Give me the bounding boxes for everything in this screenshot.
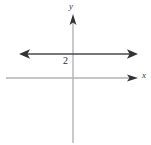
graph-figure: y x 2 [0, 0, 151, 145]
x-axis-label: x [142, 71, 146, 80]
y-axis-label: y [69, 2, 73, 11]
y-intercept-label: 2 [63, 56, 68, 66]
coordinate-plane-svg [0, 0, 151, 145]
